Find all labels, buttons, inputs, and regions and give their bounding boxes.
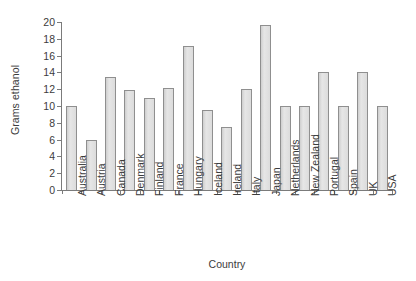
y-tick-label: 12 xyxy=(43,83,55,95)
x-tick-label: Portugal xyxy=(328,157,340,196)
x-tick-label: UK xyxy=(367,181,379,196)
y-tick-label: 2 xyxy=(49,167,55,179)
y-tick-mark xyxy=(57,140,61,141)
x-tick-mark xyxy=(62,190,63,194)
y-tick-label: 14 xyxy=(43,66,55,78)
x-tick-label: France xyxy=(173,163,185,196)
y-tick-label: 4 xyxy=(49,150,55,162)
y-tick-mark xyxy=(57,190,61,191)
x-tick-label: Japan xyxy=(270,167,282,196)
x-label-slot: Italy xyxy=(237,196,256,258)
y-tick-label: 0 xyxy=(49,184,55,196)
x-label-slot: Hungary xyxy=(178,196,197,258)
bar-chart: Grams ethanol 02468101214161820 Australi… xyxy=(0,0,416,281)
x-label-slot: Canada xyxy=(101,196,120,258)
x-label-slot: Spain xyxy=(334,196,353,258)
y-tick-mark xyxy=(57,72,61,73)
x-label-slot: Austria xyxy=(81,196,100,258)
x-label-slot: Australia xyxy=(62,196,81,258)
x-label-slot: France xyxy=(159,196,178,258)
x-tick-label: Netherlands xyxy=(289,139,301,196)
x-tick-label: Italy xyxy=(250,177,262,196)
x-label-slot: Portugal xyxy=(314,196,333,258)
y-tick-mark xyxy=(57,123,61,124)
x-tick-label: Denmark xyxy=(134,153,146,196)
y-tick-mark xyxy=(57,22,61,23)
y-tick-mark xyxy=(57,156,61,157)
y-tick-mark xyxy=(57,173,61,174)
x-label-slot: Iceland xyxy=(198,196,217,258)
x-label-slot: Netherlands xyxy=(275,196,294,258)
x-tick-label: Australia xyxy=(76,155,88,196)
x-axis-ticks xyxy=(62,190,392,195)
y-tick-label: 6 xyxy=(49,134,55,146)
y-axis-title: Grams ethanol xyxy=(6,0,24,200)
x-label-slot: UK xyxy=(353,196,372,258)
x-label-slot: Denmark xyxy=(120,196,139,258)
y-axis-title-text: Grams ethanol xyxy=(9,65,21,135)
x-tick-label: Ireland xyxy=(231,164,243,196)
x-axis-title-text: Country xyxy=(209,258,246,270)
bar-slot xyxy=(256,22,275,190)
x-tick-label: Canada xyxy=(115,159,127,196)
x-tick-label: USA xyxy=(386,174,398,196)
x-axis-labels: AustraliaAustriaCanadaDenmarkFinlandFran… xyxy=(62,196,392,258)
x-label-slot: Japan xyxy=(256,196,275,258)
bar-slot xyxy=(353,22,372,190)
y-tick-label: 8 xyxy=(49,117,55,129)
plot-area: 02468101214161820 xyxy=(62,22,392,190)
y-tick-mark xyxy=(57,89,61,90)
y-tick-mark xyxy=(57,39,61,40)
x-tick-label: Austria xyxy=(95,163,107,196)
x-label-slot: New Zealand xyxy=(295,196,314,258)
bar-japan xyxy=(260,25,271,190)
y-tick-mark xyxy=(57,106,61,107)
x-label-slot: Finland xyxy=(140,196,159,258)
x-tick-label: New Zealand xyxy=(309,134,321,196)
x-tick-label: Finland xyxy=(153,162,165,196)
bar-slot xyxy=(373,22,392,190)
x-tick-label: Iceland xyxy=(212,162,224,196)
x-axis-title: Country xyxy=(62,258,392,270)
y-tick-label: 18 xyxy=(43,33,55,45)
x-label-slot: Ireland xyxy=(217,196,236,258)
y-tick-mark xyxy=(57,56,61,57)
y-tick-label: 10 xyxy=(43,100,55,112)
x-tick-label: Hungary xyxy=(192,156,204,196)
y-tick-label: 20 xyxy=(43,16,55,28)
y-tick-label: 16 xyxy=(43,50,55,62)
x-tick-label: Spain xyxy=(347,169,359,196)
bar-series xyxy=(62,22,392,190)
x-label-slot: USA xyxy=(373,196,392,258)
